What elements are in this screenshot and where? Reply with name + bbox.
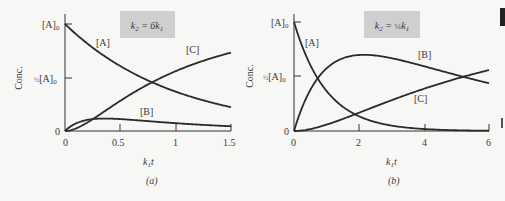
x-tick-label: 0: [291, 137, 296, 148]
x-tick-label: 4: [422, 137, 427, 148]
series-label-B: [B]: [140, 106, 153, 117]
y-tick-label-half-A0: ½[A]0: [263, 71, 286, 84]
curve-B: [294, 55, 489, 131]
panel-a: k2 = 6k1 [A]0 ½[A]0 0 Conc. 0 0.5 1 1.5 …: [13, 11, 236, 187]
panel-caption: (a): [146, 175, 158, 187]
y-tick-label-0: 0: [284, 126, 289, 137]
y-tick-label-half-A0: ½[A]0: [34, 73, 57, 86]
series-label-A: [A]: [305, 37, 319, 48]
x-tick-label: 1.5: [223, 137, 236, 148]
series-label-A: [A]: [96, 37, 110, 48]
series-label-C: [C]: [414, 93, 427, 104]
x-tick-label: 1: [173, 137, 178, 148]
x-tick-label: 0: [63, 137, 68, 148]
series-label-C: [C]: [186, 44, 199, 55]
panel-b: k2 = ⅙k1 [A]0 ½[A]0 0 Conc. 0 2 4 6 k1t …: [244, 11, 491, 187]
panel-caption: (b): [388, 175, 400, 187]
x-tick-label: 6: [486, 137, 491, 148]
y-tick-label-A0: [A]0: [42, 19, 60, 32]
series-label-B: [B]: [418, 49, 431, 60]
y-tick-label-A0: [A]0: [271, 17, 289, 30]
figure: k2 = 6k1 [A]0 ½[A]0 0 Conc. 0 0.5 1 1.5 …: [0, 0, 505, 201]
y-axis-label: Conc.: [244, 64, 255, 88]
x-tick-label: 2: [356, 137, 361, 148]
x-axis-label: k1t: [386, 156, 397, 169]
y-axis-label: Conc.: [13, 66, 24, 90]
page-edge-mark: [501, 118, 503, 128]
x-tick-label: 0.5: [112, 137, 125, 148]
y-tick-label-0: 0: [55, 126, 60, 137]
page-edge-mark: [500, 8, 505, 26]
curve-C: [294, 70, 489, 131]
x-axis-label: k1t: [143, 156, 154, 169]
